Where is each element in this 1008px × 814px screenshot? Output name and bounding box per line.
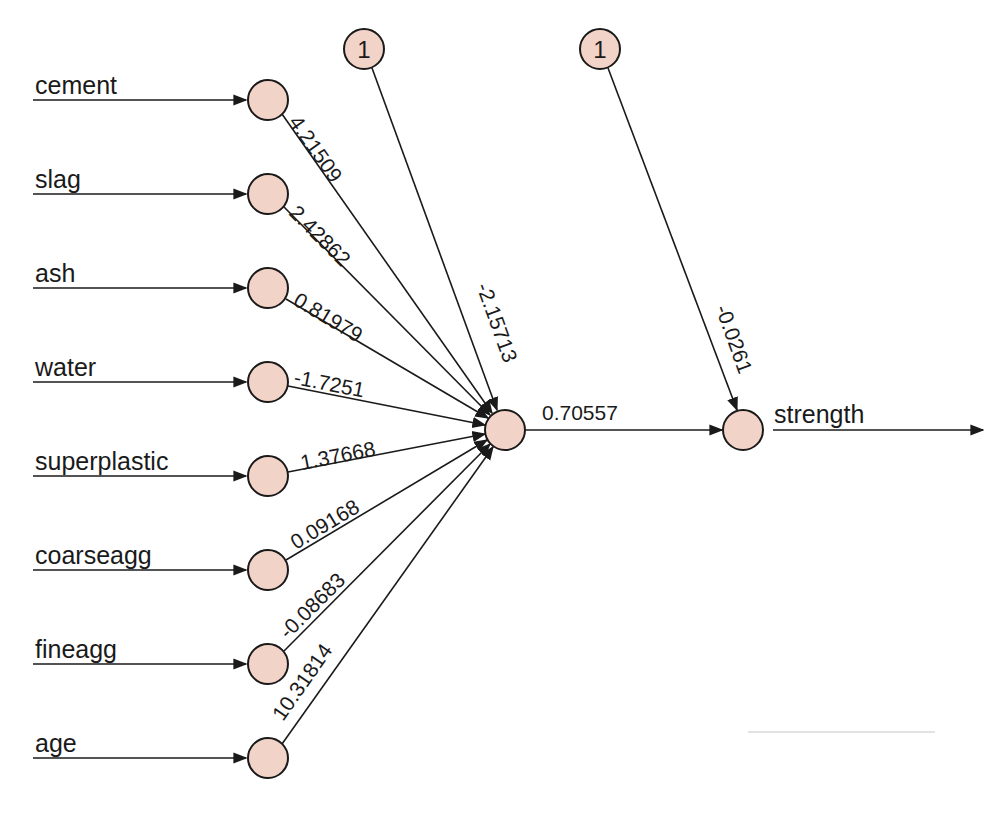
weight-bias-hidden: -2.15713	[472, 280, 522, 366]
hidden-node	[485, 410, 525, 450]
edge-bias-output	[608, 68, 737, 410]
weight-coarseagg: 0.09168	[286, 495, 363, 554]
weight-ash: 0.81979	[290, 288, 367, 347]
input-label-cement: cement	[35, 71, 117, 99]
input-label-age: age	[35, 729, 77, 757]
input-nodes	[248, 80, 288, 778]
weight-slag: 2.42862	[285, 201, 355, 271]
edge-fineagg-hidden	[284, 444, 490, 651]
bias-node-output: 1	[580, 29, 620, 69]
input-node-water	[248, 362, 288, 402]
weight-superplastic: 1.37668	[298, 437, 377, 474]
weight-bias-output: -0.0261	[711, 302, 757, 377]
input-label-fineagg: fineagg	[35, 635, 117, 663]
input-node-superplastic	[248, 456, 288, 496]
input-node-ash	[248, 268, 288, 308]
input-label-water: water	[34, 353, 96, 381]
neural-network-diagram: cement slag ash water superplastic coars…	[0, 0, 1008, 814]
input-labels: cement slag ash water superplastic coars…	[34, 71, 168, 757]
bias-node-hidden-label: 1	[357, 36, 370, 63]
output-node	[723, 410, 763, 450]
weight-hidden-output: 0.70557	[542, 401, 618, 424]
input-label-superplastic: superplastic	[35, 447, 168, 475]
network-canvas: cement slag ash water superplastic coars…	[0, 0, 1008, 814]
input-node-slag	[248, 174, 288, 214]
bias-node-hidden: 1	[344, 29, 384, 69]
output-label-strength: strength	[774, 400, 864, 428]
input-node-age	[248, 738, 288, 778]
input-label-slag: slag	[35, 165, 81, 193]
input-node-coarseagg	[248, 550, 288, 590]
weight-water: -1.7251	[292, 365, 366, 401]
weight-cement: 4.21509	[285, 111, 347, 186]
input-node-fineagg	[248, 644, 288, 684]
input-label-coarseagg: coarseagg	[35, 541, 152, 569]
input-node-cement	[248, 80, 288, 120]
input-label-ash: ash	[35, 259, 75, 287]
bias-node-output-label: 1	[593, 36, 606, 63]
